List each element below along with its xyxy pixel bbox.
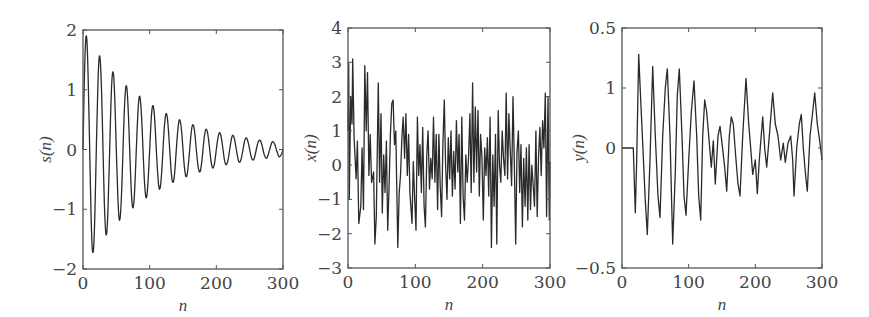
y-tick-label: 1 bbox=[605, 78, 616, 98]
x-tick-label: 100 bbox=[672, 272, 704, 292]
data-trace-y bbox=[622, 54, 822, 244]
y-tick-label: −0.5 bbox=[575, 258, 616, 278]
x-tick-label: 200 bbox=[739, 272, 771, 292]
chart-y-svg: 01002003000.510−0.5ny(n) bbox=[0, 0, 869, 317]
chart-y: 01002003000.510−0.5ny(n) bbox=[0, 0, 869, 317]
x-axis-label: n bbox=[718, 295, 727, 314]
y-axis-label: y(n) bbox=[569, 134, 588, 164]
x-tick-label: 0 bbox=[617, 272, 628, 292]
x-tick-label: 300 bbox=[806, 272, 838, 292]
y-tick-label: 0 bbox=[605, 138, 616, 158]
y-tick-label: 0.5 bbox=[589, 18, 616, 38]
